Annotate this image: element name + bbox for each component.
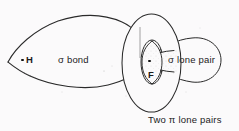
sigma-bond-label: σ bond (58, 55, 89, 65)
hydrogen-atom-label: H (26, 55, 33, 65)
orbital-diagram-figure: H σ bond F σ lone pair Two π lone pairs (0, 0, 239, 131)
hydrogen-nucleus-dot-icon (21, 59, 24, 62)
orbital-diagram-canvas (0, 0, 239, 131)
fluorine-nucleus-dot-icon (148, 60, 151, 63)
sigma-lone-pair-label: σ lone pair (168, 55, 215, 65)
fluorine-atom-label: F (148, 70, 154, 80)
pi-lone-pairs-label: Two π lone pairs (148, 115, 222, 125)
